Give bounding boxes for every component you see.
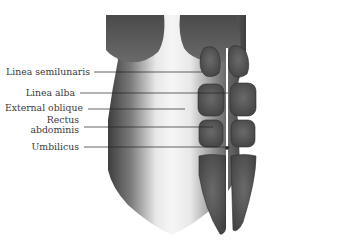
label-umbilicus: Umbilicus (0, 142, 79, 152)
label-rectus-line2: abdominis (0, 125, 79, 135)
label-linea-semilunaris: Linea semilunaris (0, 67, 90, 77)
label-linea-alba: Linea alba (0, 88, 75, 98)
label-external-oblique: External oblique (0, 103, 83, 113)
